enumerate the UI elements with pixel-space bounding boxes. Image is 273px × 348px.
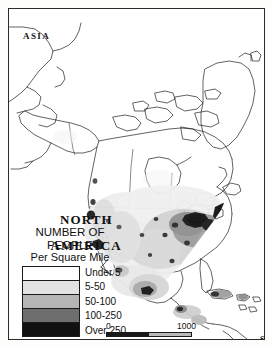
legend-title-line3: Per Square Mile xyxy=(22,251,118,264)
legend-label-under-5: Under 5 xyxy=(85,266,126,279)
scale-bar-segment-dark xyxy=(106,332,149,337)
scale-bar-units: Miles xyxy=(106,338,192,340)
label-north-america-line1: NORTH xyxy=(60,212,113,227)
scale-bar-track xyxy=(106,332,192,337)
scale-bar-segment-light xyxy=(149,332,192,337)
population-density-map: ASIA NORTH AMERICA SOUTH AMERICA NUMBER … xyxy=(0,0,273,348)
legend-swatch-50-100 xyxy=(23,295,79,309)
map-frame: ASIA NORTH AMERICA SOUTH AMERICA NUMBER … xyxy=(8,8,265,340)
label-south-america-line1: SOUTH xyxy=(260,335,265,340)
legend-label-50-100: 50-100 xyxy=(85,295,126,308)
label-south-america: SOUTH AMERICA xyxy=(237,326,265,340)
legend-swatch-100-250 xyxy=(23,309,79,323)
label-asia: ASIA xyxy=(23,31,50,41)
legend-swatch-under-5 xyxy=(23,267,79,281)
scale-bar: 0 1000 Miles xyxy=(106,321,192,340)
legend-label-5-50: 5-50 xyxy=(85,280,126,293)
legend-swatch-5-50 xyxy=(23,281,79,295)
scale-bar-max: 1000 xyxy=(177,321,196,331)
legend-title-line1: NUMBER OF xyxy=(22,226,118,239)
scale-bar-numbers: 0 1000 xyxy=(106,321,192,332)
legend-swatch-column xyxy=(22,266,80,337)
scale-bar-min: 0 xyxy=(106,321,111,331)
legend-swatch-over-250 xyxy=(23,323,79,336)
legend-title: NUMBER OF PEOPLE Per Square Mile xyxy=(22,226,118,264)
legend: NUMBER OF PEOPLE Per Square Mile Under 5… xyxy=(22,226,138,337)
legend-title-line2: PEOPLE xyxy=(22,239,118,252)
copyright-notice: © Copyright 1960 by Map Projects Inc. xyxy=(22,338,101,340)
